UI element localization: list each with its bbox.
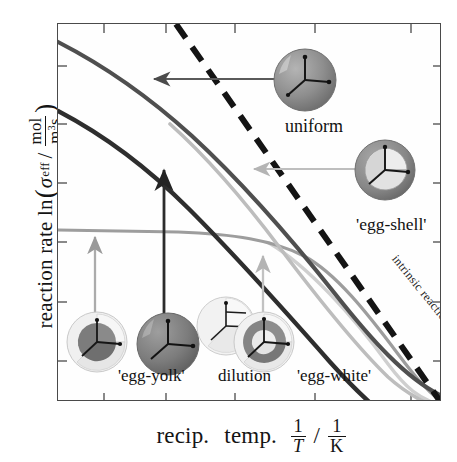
y-axis-symbol: σ	[35, 178, 56, 189]
x-axis-title-word1: recip.	[156, 423, 209, 449]
y-axis-slash: /	[35, 149, 56, 161]
x-axis-fraction-inverse-kelvin: 1 K	[328, 417, 345, 456]
y-axis-unit-numerator: mol	[27, 116, 44, 147]
plot-area: uniform 'egg-shell' 'egg-yolk' dilution …	[57, 23, 441, 401]
egg-white-sphere-icon	[233, 311, 295, 373]
x-axis-fraction-inverse-temperature: 1 T	[291, 417, 305, 456]
y-axis-close-paren: )	[32, 104, 59, 113]
uniform-sphere-icon	[273, 48, 337, 112]
label-uniform: uniform	[285, 116, 343, 137]
x-axis-title-word2: temp.	[224, 423, 277, 449]
x-axis-frac2-denominator: K	[328, 436, 345, 456]
x-axis-frac2-numerator: 1	[330, 417, 343, 436]
y-axis-unit-den-exponent: 3	[45, 125, 56, 130]
y-axis-open-paren: (	[32, 189, 59, 198]
x-axis-frac1-numerator: 1	[292, 417, 305, 436]
figure-root: reaction rate ln ( σeff / mol m3s )	[0, 0, 457, 462]
x-axis-frac1-denominator: T	[291, 436, 305, 456]
label-dilution: dilution	[218, 366, 271, 386]
label-egg-yolk: 'egg-yolk'	[118, 366, 185, 386]
y-axis-symbol-subscript: eff	[38, 162, 51, 176]
y-axis-title-prefix: reaction rate ln	[35, 199, 56, 328]
egg-shell-sphere-icon	[354, 139, 416, 201]
x-axis-slash: /	[311, 423, 324, 449]
x-axis-ticks-top	[104, 24, 411, 33]
label-egg-white: 'egg-white'	[297, 366, 371, 386]
x-axis-title: recip. temp. 1 T / 1 K	[57, 413, 447, 459]
egg-yolk-sphere-icon	[66, 311, 128, 373]
label-egg-shell: 'egg-shell'	[356, 214, 426, 235]
